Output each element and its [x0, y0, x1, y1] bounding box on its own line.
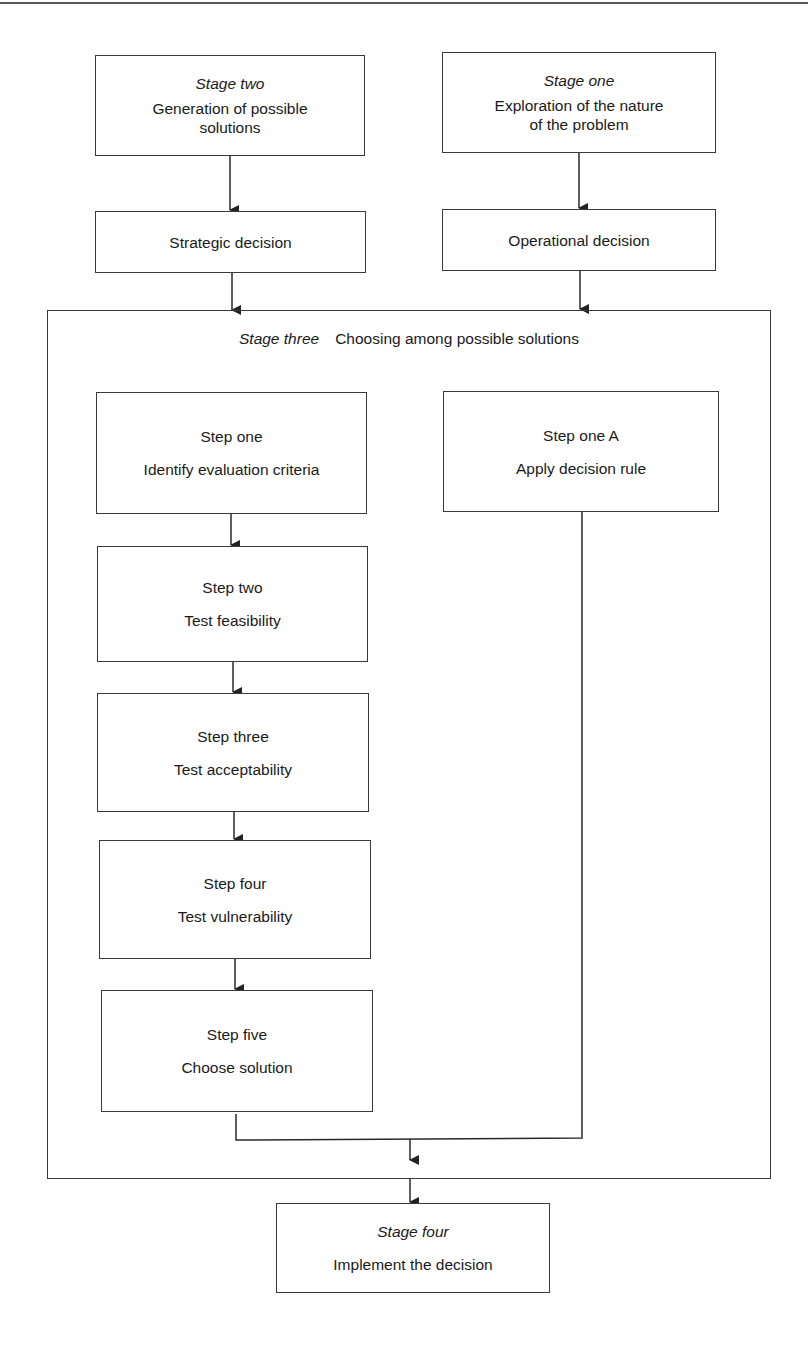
stage-four-title: Stage four [377, 1222, 449, 1241]
step-four-box: Step four Test vulnerability [99, 840, 371, 959]
step-five-title: Step five [207, 1025, 267, 1044]
operational-decision-box: Operational decision [442, 209, 716, 271]
stage-one-box: Stage one Exploration of the nature of t… [442, 52, 716, 153]
step-three-box: Step three Test acceptability [97, 693, 369, 812]
step-five-box: Step five Choose solution [101, 990, 373, 1112]
step-one-text: Identify evaluation criteria [144, 460, 320, 479]
stage-four-box: Stage four Implement the decision [276, 1203, 550, 1293]
step-four-title: Step four [204, 874, 267, 893]
step-two-box: Step two Test feasibility [97, 546, 368, 662]
stage-two-title: Stage two [196, 74, 265, 93]
stage-two-box: Stage two Generation of possible solutio… [95, 55, 365, 156]
step-two-title: Step two [202, 578, 262, 597]
stage-two-text-line1: Generation of possible [152, 99, 307, 118]
step-one-a-text: Apply decision rule [516, 459, 646, 478]
strategic-decision-text: Strategic decision [169, 233, 291, 252]
step-four-text: Test vulnerability [178, 907, 293, 926]
strategic-decision-box: Strategic decision [95, 211, 366, 273]
stage-two-text-line2: solutions [199, 118, 260, 137]
step-three-title: Step three [197, 727, 269, 746]
stage-one-text-line2: of the problem [529, 115, 628, 134]
stage-one-text-line1: Exploration of the nature [495, 96, 664, 115]
stage-one-title: Stage one [544, 71, 615, 90]
step-one-title: Step one [200, 427, 262, 446]
stage-four-text: Implement the decision [333, 1255, 492, 1274]
step-one-a-title: Step one A [543, 426, 619, 445]
stage-three-text: Choosing among possible solutions [335, 330, 579, 347]
step-one-box: Step one Identify evaluation criteria [96, 392, 367, 514]
step-three-text: Test acceptability [174, 760, 292, 779]
step-one-a-box: Step one A Apply decision rule [443, 391, 719, 512]
stage-three-title: Stage three [239, 330, 319, 347]
step-two-text: Test feasibility [184, 611, 280, 630]
operational-decision-text: Operational decision [508, 231, 649, 250]
step-five-text: Choose solution [181, 1058, 292, 1077]
